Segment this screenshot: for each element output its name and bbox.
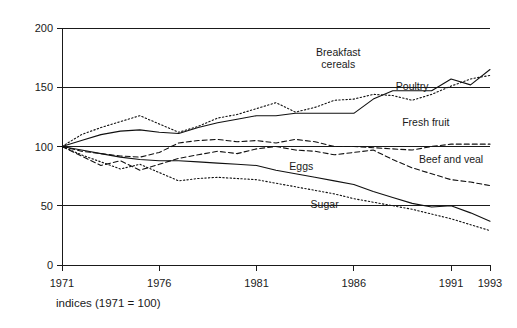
line-chart: 050100150200 197119761981198619911993 Br… <box>0 0 517 328</box>
y-axis <box>57 28 62 265</box>
x-axis <box>62 265 490 271</box>
series-label-sugar: Sugar <box>311 198 340 210</box>
x-tick-label-1976: 1976 <box>147 277 171 289</box>
series-label-poultry: Poultry <box>396 80 429 92</box>
x-tick-label-1971: 1971 <box>50 277 74 289</box>
chart-container: 050100150200 197119761981198619911993 Br… <box>0 0 517 328</box>
series-label-eggs: Eggs <box>289 160 313 172</box>
x-tick-label-1986: 1986 <box>342 277 366 289</box>
series-lines <box>62 69 490 230</box>
y-axis-tick-labels: 050100150200 <box>35 22 53 271</box>
y-tick-label-50: 50 <box>41 200 53 212</box>
x-tick-label-1981: 1981 <box>244 277 268 289</box>
y-tick-label-150: 150 <box>35 81 53 93</box>
y-tick-label-100: 100 <box>35 141 53 153</box>
x-tick-label-1993: 1993 <box>478 277 502 289</box>
series-annotations: BreakfastcerealsPoultryFresh fruitBeef a… <box>289 46 483 210</box>
series-label-beef-and-veal: Beef and veal <box>419 153 483 165</box>
series-label-breakfast-cereals: Breakfastcereals <box>316 46 360 70</box>
chart-caption: indices (1971 = 100) <box>56 297 161 309</box>
x-axis-tick-labels: 197119761981198619911993 <box>50 277 502 289</box>
y-tick-label-200: 200 <box>35 22 53 34</box>
y-tick-label-0: 0 <box>47 259 53 271</box>
x-tick-label-1991: 1991 <box>439 277 463 289</box>
series-label-fresh-fruit: Fresh fruit <box>402 116 449 128</box>
